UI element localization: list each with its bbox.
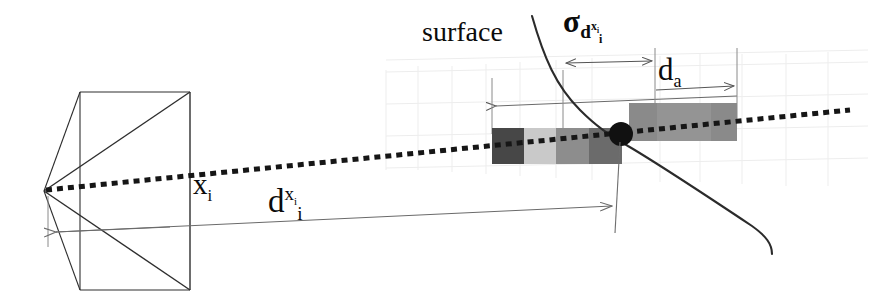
sigma-sub-sub: i [599,32,602,46]
sigma-dimension-arrow [566,61,652,63]
camera-frustum [44,92,190,290]
sigma-sub-base: d [580,21,591,42]
x-i-sub: i [208,186,213,205]
label-d-a: da [658,54,681,85]
label-surface: surface [422,18,503,46]
d-i-dimension-arrow-left [56,227,170,232]
sigma-glyph: σ [563,4,580,39]
label-d-i-xi: dxii [268,185,302,218]
depth-cell [657,103,711,141]
line-of-sight-ray [46,110,850,190]
background-grid [386,50,868,186]
d-i-base: d [268,183,285,219]
depth-cell [556,128,589,164]
d-a-sub: a [674,71,682,91]
depth-cell [524,128,556,164]
surface-intersection-point [609,122,633,146]
depth-cell [629,103,657,141]
d-i-sub: i [297,203,302,224]
d-a-base: d [658,52,674,87]
d-i-sup: x [285,183,295,204]
depth-measurement-diagram: surface σdxii da xi dxii [0,0,887,303]
depth-cells-right [629,103,737,141]
label-x-i: xi [193,170,212,199]
x-i-base: x [193,168,208,200]
label-sigma-d-i-xi: σdxii [563,6,602,37]
